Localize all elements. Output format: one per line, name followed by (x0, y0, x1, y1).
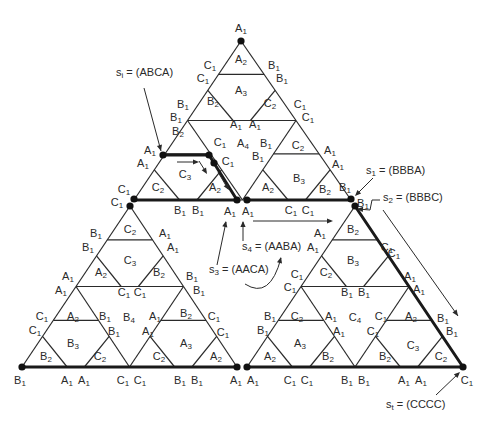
label-subscript: 1 (85, 379, 89, 388)
label-letter: C (197, 72, 205, 84)
cell-label: A2 (210, 351, 222, 362)
edge-label: A1 (159, 228, 171, 239)
label-subscript: 1 (293, 209, 297, 218)
edge-label: B1 (192, 205, 204, 216)
edge-label: B1 (170, 112, 182, 123)
label-letter: C (435, 350, 443, 362)
cell-label: C2 (152, 182, 164, 193)
label-subscript: 3 (415, 344, 419, 353)
label-subscript: 1 (331, 149, 335, 158)
cell-label: A2 (67, 311, 79, 322)
label-letter: C (264, 97, 272, 109)
label-subscript: 2 (269, 186, 273, 195)
arrowhead-icon (222, 221, 227, 227)
label-subscript: 1 (115, 330, 119, 339)
cell-label: C3 (179, 169, 191, 180)
label-subscript: 1 (259, 155, 263, 164)
label-subscript: 1 (37, 329, 41, 338)
label-subscript: 1 (119, 201, 123, 210)
label-letter: C (301, 374, 309, 386)
edge-label: B1 (358, 375, 370, 386)
edge-label: B1 (108, 326, 120, 337)
edge-label: A1 (307, 242, 319, 253)
cell-label: A2 (235, 54, 247, 65)
label-subscript: 2 (187, 312, 191, 321)
edge-label: B1 (82, 242, 94, 253)
edge-label: A1 (332, 159, 344, 170)
cell-label: A3 (294, 338, 306, 349)
edge-label: B1 (268, 60, 280, 71)
label-subscript: 1 (314, 246, 318, 255)
label-subscript: 1 (310, 116, 314, 125)
edge-label: B1 (174, 205, 186, 216)
edge-label: C1 (204, 60, 216, 71)
edge-label: A1 (325, 311, 337, 322)
edge-label: B1 (341, 375, 353, 386)
edge-label: B1 (99, 311, 111, 322)
edge-label: C1 (291, 269, 303, 280)
label-subscript: 1 (420, 288, 424, 297)
state-value: = (AACA) (219, 263, 269, 275)
cell-label: B2 (153, 267, 165, 278)
label-letter: C (461, 374, 469, 386)
label-letter: C (134, 374, 142, 386)
cell-label: B2 (347, 224, 359, 235)
state-node-dot (205, 151, 212, 158)
edge-label: A1 (149, 311, 161, 322)
cell-label: C4 (349, 312, 361, 323)
edge-label: A1 (167, 242, 179, 253)
edge-label: A1 (137, 158, 149, 169)
label-subscript: 1 (422, 379, 426, 388)
cell-label: B2 (207, 96, 219, 107)
cell-label: A2 (209, 182, 221, 193)
label-letter: C (349, 311, 357, 323)
label-letter: C (214, 136, 222, 148)
label-subscript: 1 (332, 315, 336, 324)
label-subscript: 1 (144, 162, 148, 171)
edge-label: A1 (230, 119, 242, 130)
label-subscript: 1 (151, 149, 155, 158)
label-subscript: 1 (166, 232, 170, 241)
s-3-pointer (217, 222, 226, 265)
label-letter: C (153, 350, 161, 362)
edge-label: B1 (339, 182, 351, 193)
label-subscript: 2 (74, 315, 78, 324)
label-subscript: 1 (126, 188, 130, 197)
label-subscript: 1 (310, 209, 314, 218)
label-letter: C (407, 339, 415, 351)
edge-label: C1 (29, 325, 41, 336)
label-subscript: 2 (443, 355, 447, 364)
cell-label: B2 (379, 351, 391, 362)
label-subscript: 1 (309, 379, 313, 388)
label-letter: C (367, 325, 375, 337)
state-label-s-1: s1 = (BBBA) (366, 165, 425, 176)
label-subscript: 1 (231, 210, 235, 219)
label-subscript: 1 (62, 289, 66, 298)
label-letter: C (118, 183, 126, 195)
cell-label: A2 (95, 267, 107, 278)
edge-label: C1 (111, 197, 123, 208)
label-subscript: 1 (365, 379, 369, 388)
label-subscript: 2 (102, 355, 106, 364)
cell-label: C2 (292, 140, 304, 151)
edge-label: C1 (302, 205, 314, 216)
edge-label: B1 (252, 151, 264, 162)
edge-label: B1 (264, 311, 276, 322)
state-node-dot (233, 196, 240, 203)
edge-label: B1 (90, 228, 102, 239)
label-letter: C (285, 204, 293, 216)
label-subscript: 2 (242, 58, 246, 67)
edge-label: C1 (301, 375, 313, 386)
cell-label: B2 (40, 351, 52, 362)
label-subscript: 1 (254, 379, 258, 388)
edge-label: A1 (78, 375, 90, 386)
state-node-dot (126, 202, 133, 209)
label-subscript: 4 (244, 142, 248, 151)
label-subscript: 1 (200, 289, 204, 298)
label-subscript: 1 (181, 209, 185, 218)
label-subscript: 3 (187, 173, 191, 182)
label-letter: C (375, 310, 383, 322)
label-letter: C (111, 196, 119, 208)
label-subscript: 1 (125, 379, 129, 388)
edge-label: C1 (284, 282, 296, 293)
